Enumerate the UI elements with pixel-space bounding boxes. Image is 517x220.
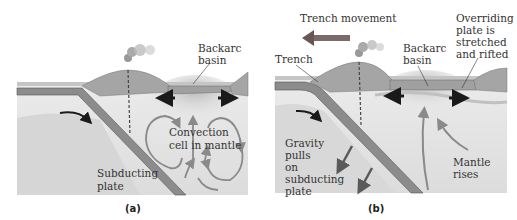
label-convection-1: Convection [169,126,229,138]
backarc-crust [390,80,476,90]
right-crust [230,72,248,96]
label-gravity-2: pulls [285,149,311,161]
label-overriding-4: and rifted [456,48,509,60]
label-mantle-1: Mantle [453,156,491,168]
label-mantle-2: rises [453,168,478,180]
label-backarc-b-1: Backarc [403,42,446,54]
label-overriding-2: plate is [456,24,495,36]
panel-b: Trench movement Trench Backarc basin Ove… [275,12,514,214]
volcanic-plume [124,44,155,62]
caption-b: (b) [368,203,384,214]
label-trench: Trench [275,53,313,65]
label-subducting-1: Subducting [97,167,158,179]
backarc-basin-diagram: Backarc basin Convection cell in mantle … [0,0,517,220]
panel-a: Backarc basin Convection cell in mantle … [17,42,248,214]
label-gravity-4: subducting [285,173,345,185]
label-backarc-a-1: Backarc [198,42,241,54]
label-backarc-b-2: basin [403,54,432,66]
volcanic-plume [355,40,384,57]
label-gravity-3: on [285,161,298,173]
label-trench-movement: Trench movement [300,12,397,24]
caption-a: (a) [125,203,141,214]
volcanic-arc [82,70,170,96]
label-subducting-2: plate [97,180,124,192]
volcanic-arc [310,62,392,92]
right-crust [474,68,507,92]
label-gravity-1: Gravity [285,137,324,149]
label-overriding-3: stretched [456,36,507,48]
trench-movement-arrowhead [302,30,314,46]
label-convection-2: cell in mantle [169,139,241,151]
label-overriding-1: Overriding [456,12,514,24]
label-backarc-a-2: basin [198,54,227,66]
label-gravity-5: plate [285,185,312,197]
